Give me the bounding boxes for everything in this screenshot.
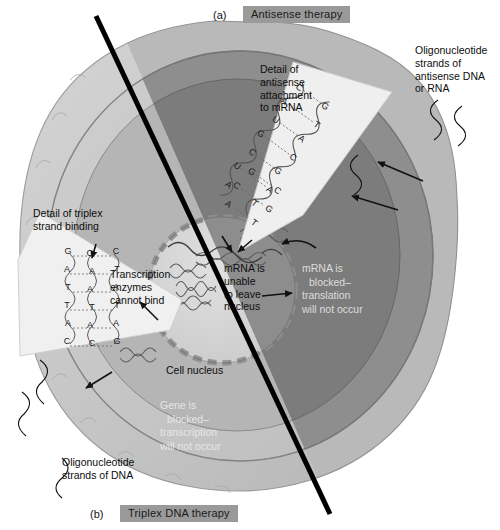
label-line: strands of DNA xyxy=(62,469,133,481)
label-line: blocked– xyxy=(302,276,398,290)
svg-text:A: A xyxy=(89,266,95,276)
panel-a-letter: (a) xyxy=(213,9,226,21)
figure-canvas: CG AT UA GC CG UA AT GC CG AT xyxy=(0,0,500,530)
label-line: blocked– xyxy=(160,413,270,427)
label-line: Detail of triplex xyxy=(33,207,102,219)
label-oligo-antisense: Oligonucleotide strands of antisense DNA… xyxy=(415,44,500,95)
svg-text:A: A xyxy=(113,318,119,328)
label-transcription-enzymes: Transcription enzymes cannot bind xyxy=(110,268,195,306)
label-cell-nucleus: Cell nucleus xyxy=(166,364,223,377)
label-mrna-unable: mRNA is unable to leave nucleus xyxy=(224,262,296,313)
panel-b-letter: (b) xyxy=(90,508,103,520)
svg-text:A: A xyxy=(87,320,93,330)
label-line: strands of xyxy=(415,57,461,69)
label-detail-antisense: Detail of antisense attachment to mRNA xyxy=(260,63,340,114)
label-line: nucleus xyxy=(224,300,260,312)
label-line: mRNA is xyxy=(302,262,343,274)
svg-text:C: C xyxy=(64,336,71,346)
svg-text:A: A xyxy=(87,284,93,294)
label-detail-triplex: Detail of triplex strand binding xyxy=(33,207,133,233)
svg-text:A: A xyxy=(64,264,70,274)
svg-text:T: T xyxy=(64,300,70,310)
label-oligo-dna: Oligonucleotide strands of DNA xyxy=(62,456,162,482)
svg-text:C: C xyxy=(113,246,120,256)
label-line: Transcription xyxy=(110,268,170,280)
svg-text:C: C xyxy=(89,338,96,348)
svg-text:G: G xyxy=(64,246,71,256)
label-line: enzymes xyxy=(110,281,152,293)
label-line: Oligonucleotide xyxy=(62,456,134,468)
label-line: translation xyxy=(302,289,350,301)
label-line: antisense DNA xyxy=(415,70,485,82)
label-line: antisense xyxy=(260,76,305,88)
label-line: strand binding xyxy=(33,220,99,232)
label-line: attachment xyxy=(260,89,312,101)
svg-text:G: G xyxy=(113,336,120,346)
label-line: will not occur xyxy=(302,303,363,315)
label-line: will not occur xyxy=(160,440,221,452)
label-line: to mRNA xyxy=(260,101,303,113)
svg-text:A: A xyxy=(65,318,71,328)
svg-text:T: T xyxy=(89,302,95,312)
label-line: mRNA is xyxy=(224,262,265,274)
label-line: or RNA xyxy=(415,82,449,94)
panel-a-title: Antisense therapy xyxy=(243,6,350,23)
label-line: Gene is xyxy=(160,399,196,411)
label-line: cannot bind xyxy=(110,294,164,306)
label-line: to leave xyxy=(224,288,261,300)
label-line: Detail of xyxy=(260,63,299,75)
label-line: Oligonucleotide xyxy=(415,44,487,56)
panel-b-title: Triplex DNA therapy xyxy=(120,505,238,522)
label-gene-blocked: Gene is blocked– transcription will not … xyxy=(160,399,270,454)
svg-text:T: T xyxy=(65,282,71,292)
label-line: transcription xyxy=(160,426,217,438)
label-mrna-blocked: mRNA is blocked– translation will not oc… xyxy=(302,262,398,317)
label-line: unable xyxy=(224,275,256,287)
